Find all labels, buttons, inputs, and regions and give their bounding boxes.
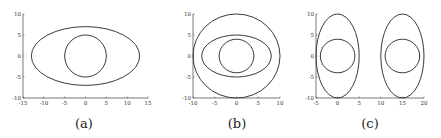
- ellipse-curve: [202, 35, 272, 77]
- subplot-caption: (b): [228, 116, 246, 131]
- y-tick-label: -10: [12, 95, 21, 101]
- y-tick-label: 5: [311, 32, 315, 38]
- subplot-caption: (c): [361, 116, 378, 131]
- x-tick-label: 5: [357, 100, 361, 106]
- circle-curve: [385, 39, 420, 73]
- circle-curve: [320, 39, 355, 73]
- x-tick-label: -5: [313, 100, 319, 106]
- subplot-caption: (a): [75, 116, 93, 131]
- circle-curve: [193, 14, 280, 98]
- x-tick-label: -5: [212, 100, 218, 106]
- y-tick-label: -5: [16, 74, 22, 80]
- y-tick-label: 10: [184, 11, 191, 17]
- y-tick-label: -10: [305, 95, 314, 101]
- y-tick-label: -5: [309, 74, 315, 80]
- y-tick-label: 10: [14, 11, 21, 17]
- subplot-b: -10-50510-10-50510(b): [182, 11, 284, 131]
- x-tick-label: 15: [399, 100, 406, 106]
- circle-curve: [65, 35, 107, 77]
- y-tick-label: 0: [311, 53, 315, 59]
- x-tick-label: 5: [257, 100, 261, 106]
- subplot-a: -15-10-5051015-10-50510(a): [12, 11, 152, 131]
- y-tick-label: 0: [188, 53, 192, 59]
- x-tick-label: 20: [421, 100, 428, 106]
- ellipse-curve: [381, 14, 424, 98]
- ellipse-curve: [316, 14, 359, 98]
- x-tick-label: 15: [145, 100, 152, 106]
- y-tick-label: -5: [186, 74, 192, 80]
- y-tick-label: 0: [18, 53, 22, 59]
- y-tick-label: 5: [18, 32, 22, 38]
- subplot-c: -505101520-10-50510(c): [305, 11, 428, 131]
- figure: -15-10-5051015-10-50510(a)-10-50510-10-5…: [0, 0, 441, 138]
- x-tick-label: 10: [277, 100, 284, 106]
- x-tick-label: 0: [235, 100, 239, 106]
- x-tick-label: -5: [62, 100, 68, 106]
- circle-curve: [219, 39, 254, 73]
- x-tick-label: 0: [336, 100, 340, 106]
- x-tick-label: -10: [39, 100, 48, 106]
- y-tick-label: 5: [188, 32, 192, 38]
- y-tick-label: -10: [182, 95, 191, 101]
- x-tick-label: 0: [84, 100, 88, 106]
- x-tick-label: 5: [105, 100, 109, 106]
- x-tick-label: 10: [377, 100, 384, 106]
- x-tick-label: 10: [124, 100, 131, 106]
- y-tick-label: 10: [307, 11, 314, 17]
